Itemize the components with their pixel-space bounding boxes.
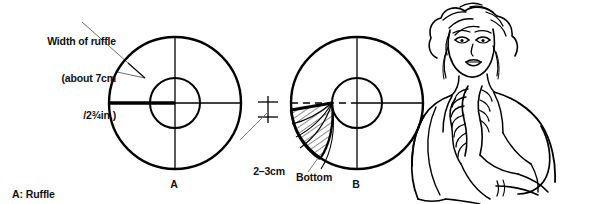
gap-imperial: 3⁄4–11⁄4in. bbox=[232, 202, 306, 204]
gap-frac-b: 1⁄4 bbox=[269, 203, 278, 204]
gap-marker bbox=[240, 96, 278, 140]
ruffle-width-line3-suffix: in.) bbox=[101, 109, 116, 121]
ruffle-width-annotation: Width of ruffle (about 7cm /23⁄4in.) bbox=[4, 10, 116, 147]
gap-measurement-annotation: 2–3cm 3⁄4–11⁄4in. bbox=[232, 140, 306, 204]
bottom-leader-line bbox=[308, 158, 318, 172]
ruffle-width-line3-prefix: /2 bbox=[83, 109, 91, 121]
gap-metric: 2–3cm bbox=[232, 165, 306, 177]
legend-item-a: A: Ruffle bbox=[12, 188, 87, 200]
ruffle-width-fraction: 3⁄4 bbox=[92, 110, 101, 121]
diagram-a-ruffle bbox=[109, 37, 241, 169]
bottom-annotation-label: Bottom bbox=[296, 171, 332, 183]
ruffle-width-line3: /23⁄4in.) bbox=[4, 109, 116, 122]
gap-frac-b-num: 1 bbox=[269, 203, 273, 204]
diagram-b-jabot bbox=[291, 37, 423, 172]
pattern-diagram-page: Width of ruffle (about 7cm /23⁄4in.) 2–3… bbox=[0, 0, 592, 204]
ruffle-width-line2: (about 7cm bbox=[4, 72, 116, 84]
legend: A: Ruffle B: Jabot (cut 2) bbox=[12, 163, 87, 204]
gap-imperial-separator: –1 bbox=[258, 202, 269, 204]
ruffle-width-line1: Width of ruffle bbox=[4, 35, 116, 47]
gap-frac-a: 3⁄4 bbox=[249, 203, 258, 204]
gap-imperial-suffix: in. bbox=[278, 202, 290, 204]
gap-frac-a-num: 3 bbox=[249, 203, 253, 204]
diagram-b-label: B bbox=[344, 178, 368, 190]
ruffle-width-frac-num: 3 bbox=[92, 110, 96, 117]
fashion-figure-illustration bbox=[412, 3, 555, 204]
diagram-a-label: A bbox=[162, 178, 186, 190]
